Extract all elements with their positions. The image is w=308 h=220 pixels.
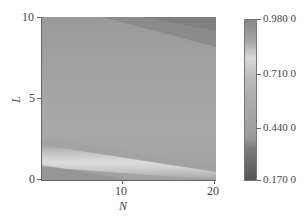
y-tick-label-5: 5 bbox=[29, 92, 35, 104]
colorbar-label-0170: 0.170 0 bbox=[263, 174, 296, 185]
colorbar-tick-0980 bbox=[257, 19, 261, 20]
x-axis-label: N bbox=[119, 199, 127, 214]
colorbar-label-0710: 0.710 0 bbox=[263, 68, 296, 79]
colorbar-tick-0170 bbox=[257, 180, 261, 181]
x-tick-label-20: 20 bbox=[207, 185, 219, 197]
colorbar-label-0440: 0.440 0 bbox=[263, 122, 296, 133]
y-tick-5 bbox=[37, 98, 41, 99]
heatmap-plot bbox=[41, 17, 216, 181]
colorbar-label-0980: 0.980 0 bbox=[263, 13, 296, 24]
x-tick-label-10: 10 bbox=[115, 185, 127, 197]
y-tick-label-0: 0 bbox=[29, 173, 35, 185]
surface-shading bbox=[42, 17, 216, 180]
y-tick-10 bbox=[37, 17, 41, 18]
colorbar-tick-0440 bbox=[257, 128, 261, 129]
y-tick-label-10: 10 bbox=[22, 11, 34, 23]
y-tick-0 bbox=[37, 179, 41, 180]
colorbar-tick-0710 bbox=[257, 74, 261, 75]
colorbar bbox=[244, 19, 257, 181]
y-axis-label: L bbox=[9, 96, 24, 103]
